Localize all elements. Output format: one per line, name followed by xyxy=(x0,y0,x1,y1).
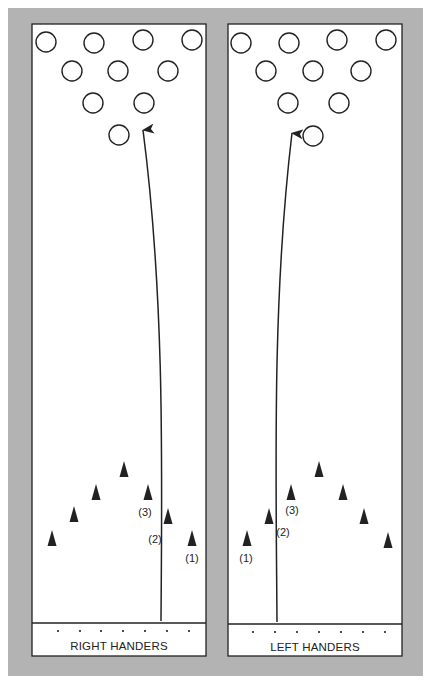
approach-dot xyxy=(362,631,364,633)
approach-dot xyxy=(296,631,298,633)
lane-label-left-handers: LEFT HANDERS xyxy=(228,641,402,653)
lane-left-handers: (3)(2)(1) xyxy=(228,24,402,656)
lane-outline xyxy=(32,24,206,656)
approach-dot xyxy=(384,631,386,633)
approach-dot xyxy=(100,630,102,632)
approach-dot xyxy=(252,631,254,633)
approach-dot xyxy=(122,630,124,632)
bowling-lanes-diagram: (3)(2)(1)(3)(2)(1) xyxy=(0,0,430,682)
lane-outline xyxy=(228,24,402,656)
position-annotation: (3) xyxy=(285,504,298,516)
approach-dot xyxy=(57,630,59,632)
approach-dot xyxy=(340,631,342,633)
approach-dot xyxy=(166,630,168,632)
lane-right-handers: (3)(2)(1) xyxy=(32,24,206,656)
position-annotation: (1) xyxy=(185,552,198,564)
position-annotation: (2) xyxy=(276,526,289,538)
position-annotation: (2) xyxy=(148,533,161,545)
position-annotation: (3) xyxy=(138,506,151,518)
approach-dot xyxy=(188,630,190,632)
approach-dot xyxy=(144,630,146,632)
approach-dot xyxy=(274,631,276,633)
approach-dot xyxy=(79,630,81,632)
approach-dot xyxy=(318,631,320,633)
lane-label-right-handers: RIGHT HANDERS xyxy=(32,640,206,652)
position-annotation: (1) xyxy=(239,552,252,564)
